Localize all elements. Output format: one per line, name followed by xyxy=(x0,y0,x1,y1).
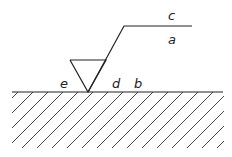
label-b: b xyxy=(134,76,142,91)
label-e: e xyxy=(60,76,68,91)
surface-texture-diagram: c a e d b xyxy=(0,0,232,157)
hatched-surface xyxy=(0,92,232,155)
label-d: d xyxy=(112,76,121,91)
label-a: a xyxy=(168,32,176,47)
label-c: c xyxy=(168,8,175,23)
